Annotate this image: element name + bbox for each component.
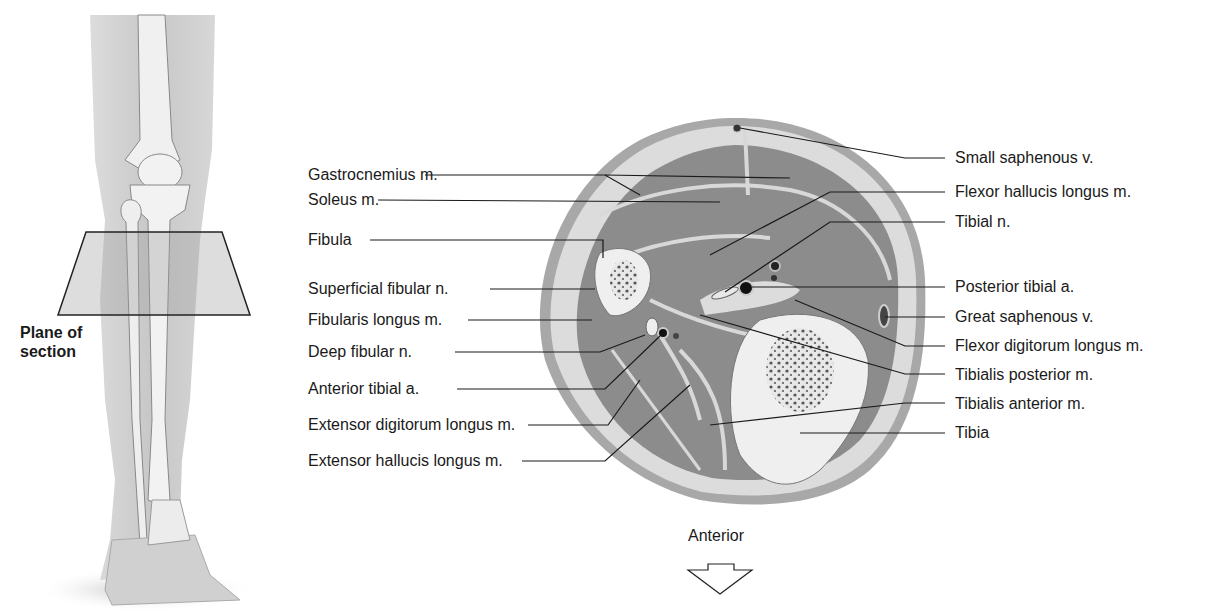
label-extensor-hallucis-longus: Extensor hallucis longus m. xyxy=(308,452,503,470)
label-flexor-hallucis-longus: Flexor hallucis longus m. xyxy=(955,183,1131,201)
plane-of-section-label: Plane of section xyxy=(20,323,82,361)
label-superficial-fibular-n: Superficial fibular n. xyxy=(308,280,449,298)
anterior-label: Anterior xyxy=(688,527,744,545)
plane-of-section xyxy=(58,232,250,315)
label-extensor-digitorum-longus: Extensor digitorum longus m. xyxy=(308,416,515,434)
plane-label-line1: Plane of xyxy=(20,323,82,342)
label-tibialis-anterior: Tibialis anterior m. xyxy=(955,395,1085,413)
label-great-saphenous-v: Great saphenous v. xyxy=(955,308,1093,326)
label-small-saphenous-v: Small saphenous v. xyxy=(955,149,1093,167)
label-gastrocnemius: Gastrocnemius m. xyxy=(308,166,438,184)
diagram-canvas xyxy=(0,0,1215,614)
cross-section xyxy=(540,118,926,505)
label-tibial-n: Tibial n. xyxy=(955,213,1010,231)
anterior-arrow-icon xyxy=(688,564,752,594)
plane-label-line2: section xyxy=(20,342,82,361)
label-fibula: Fibula xyxy=(308,231,352,249)
label-tibialis-posterior: Tibialis posterior m. xyxy=(955,366,1093,384)
label-soleus: Soleus m. xyxy=(308,191,379,209)
label-posterior-tibial-a: Posterior tibial a. xyxy=(955,278,1074,296)
label-flexor-digitorum-longus: Flexor digitorum longus m. xyxy=(955,337,1144,355)
label-tibia: Tibia xyxy=(955,424,989,442)
label-fibularis-longus: Fibularis longus m. xyxy=(308,311,442,329)
label-anterior-tibial-a: Anterior tibial a. xyxy=(308,380,419,398)
label-deep-fibular-n: Deep fibular n. xyxy=(308,343,412,361)
